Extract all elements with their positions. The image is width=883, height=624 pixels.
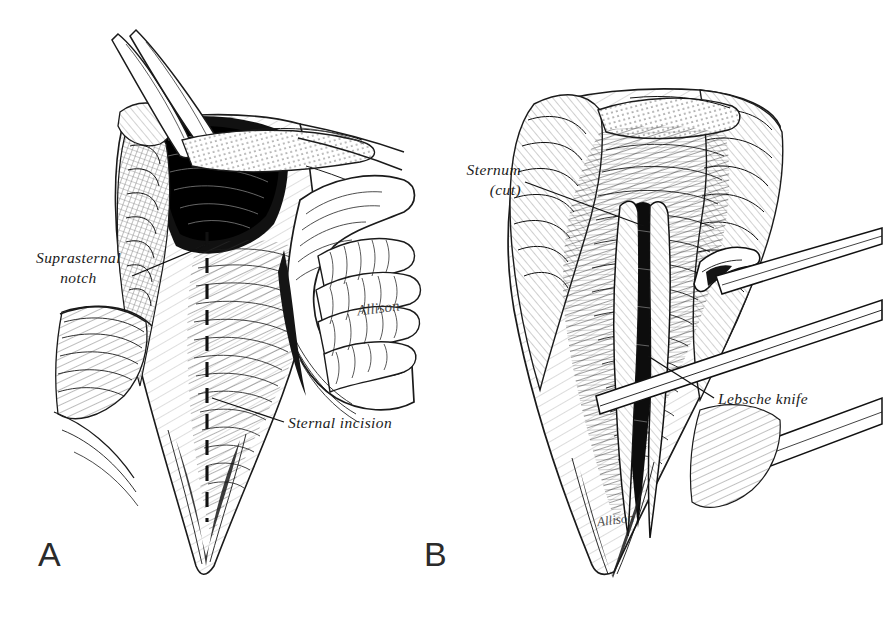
- label-suprasternal-line2: notch: [36, 268, 121, 288]
- surgeon-hand-a: [286, 176, 421, 422]
- label-suprasternal-notch: Suprasternal notch: [36, 248, 121, 288]
- label-sternum-cut: Sternum (cut): [409, 160, 521, 200]
- label-lebsche-knife: Lebsche knife: [718, 389, 808, 409]
- left-margin-band-a: [54, 412, 138, 506]
- panel-b-drawing: [508, 89, 882, 578]
- figure-canvas: Suprasternal notch Sternal incision Ster…: [0, 0, 883, 624]
- label-suprasternal-line1: Suprasternal: [36, 248, 121, 268]
- lower-right-flap-b: [690, 405, 780, 508]
- label-sternum-line2: (cut): [409, 180, 521, 200]
- label-sternal-incision: Sternal incision: [288, 413, 392, 433]
- panel-letter-a: A: [38, 535, 61, 574]
- illustration-svg: [0, 0, 883, 624]
- lower-left-flap-a: [56, 306, 152, 418]
- panel-letter-b: B: [424, 535, 447, 574]
- label-sternum-line1: Sternum: [409, 160, 521, 180]
